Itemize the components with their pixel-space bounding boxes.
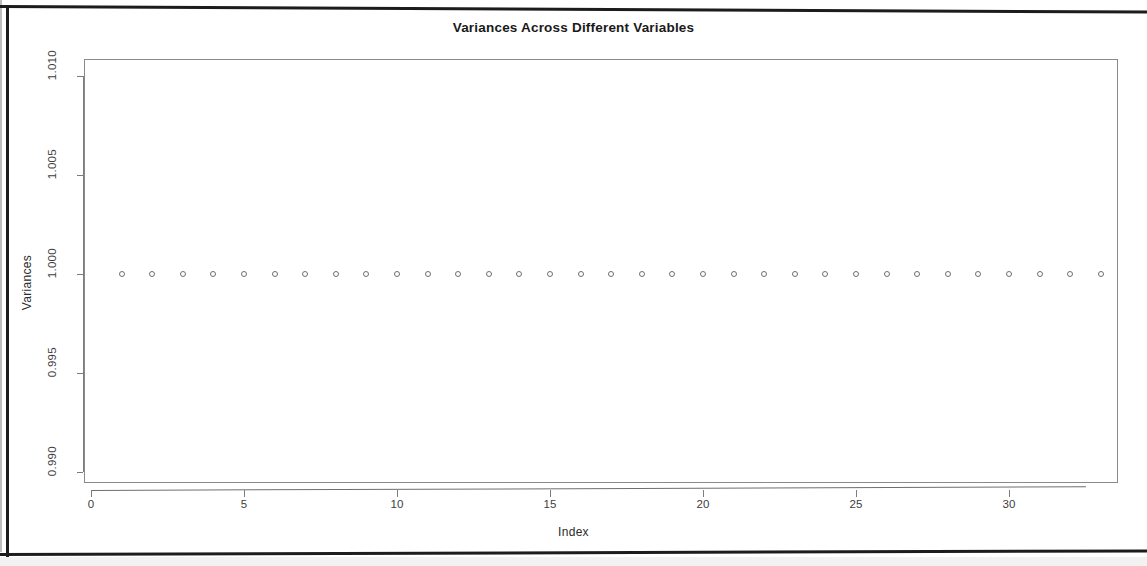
data-point [853, 271, 859, 277]
x-tick-label: 5 [224, 498, 264, 510]
x-tick-mark [703, 490, 704, 497]
data-point [486, 271, 492, 277]
data-point [1037, 271, 1043, 277]
page-bottom-margin [0, 557, 1147, 566]
y-axis-title-text: Variances [20, 255, 34, 310]
data-point [119, 271, 125, 277]
x-axis-line [91, 486, 1086, 491]
x-tick-label: 20 [683, 498, 723, 510]
x-tick-label: 25 [836, 498, 876, 510]
page-frame-right [0, 0, 2, 552]
data-point [1006, 271, 1012, 277]
x-tick-label: 30 [989, 498, 1029, 510]
y-tick-label: 0.995 [46, 347, 58, 377]
chart-title: Variances Across Different Variables [0, 20, 1147, 35]
page-frame-left [6, 5, 9, 557]
y-tick-label: 1.000 [46, 248, 58, 278]
chart-page: Variances Across Different Variables 0.9… [0, 0, 1147, 566]
x-tick-label: 15 [530, 498, 570, 510]
y-tick-mark [77, 373, 83, 374]
data-point [578, 271, 584, 277]
y-tick-mark [77, 274, 83, 275]
data-point [700, 271, 706, 277]
x-tick-mark [91, 490, 92, 497]
y-tick-mark [77, 175, 83, 176]
plot-panel [84, 59, 1118, 483]
x-tick-mark [550, 490, 551, 497]
data-point [639, 271, 645, 277]
x-tick-mark [244, 490, 245, 497]
data-point [333, 271, 339, 277]
page-frame-top [0, 5, 1147, 14]
data-point [1098, 271, 1104, 277]
y-tick-label: 1.010 [46, 50, 58, 80]
x-axis-title: Index [0, 525, 1147, 539]
y-axis-title: Variances [20, 0, 34, 566]
data-point [180, 271, 186, 277]
x-tick-label: 0 [71, 498, 111, 510]
data-point [425, 271, 431, 277]
data-point [731, 271, 737, 277]
x-tick-mark [856, 490, 857, 497]
y-tick-mark [77, 472, 83, 473]
data-point [547, 271, 553, 277]
data-point [272, 271, 278, 277]
y-tick-label: 0.990 [46, 446, 58, 476]
page-frame-bottom [0, 549, 1147, 556]
data-point [792, 271, 798, 277]
data-point [945, 271, 951, 277]
y-axis-line [83, 76, 84, 472]
x-tick-mark [397, 490, 398, 497]
x-tick-mark [1009, 490, 1010, 497]
x-tick-label: 10 [377, 498, 417, 510]
y-tick-mark [77, 76, 83, 77]
y-tick-label: 1.005 [46, 149, 58, 179]
data-point [394, 271, 400, 277]
data-point [241, 271, 247, 277]
data-point [884, 271, 890, 277]
